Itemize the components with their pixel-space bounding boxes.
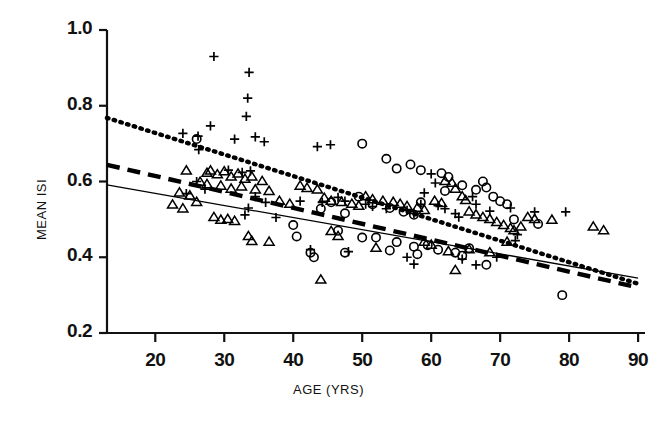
data-point-plus (296, 197, 305, 206)
x-tick-label: 50 (336, 349, 388, 371)
data-point-plus (206, 121, 215, 130)
data-point-markers (168, 52, 609, 299)
y-tick-label: 1.0 (40, 17, 92, 39)
data-point-plus (431, 178, 440, 187)
x-tick-label: 40 (267, 349, 319, 371)
x-tick-label: 30 (198, 349, 250, 371)
data-point-circle (558, 291, 566, 299)
y-axis-ticks (99, 30, 107, 333)
data-point-triangle (226, 184, 236, 192)
data-point-plus (209, 52, 218, 61)
x-tick-label: 70 (474, 349, 526, 371)
data-point-triangle (599, 226, 609, 234)
data-point-triangle (371, 243, 381, 251)
y-tick-label: 0.8 (40, 93, 92, 115)
data-point-circle (341, 209, 349, 217)
data-point-plus (409, 259, 418, 268)
data-point-circle (413, 250, 421, 258)
data-point-triangle (257, 176, 267, 184)
data-point-plus (471, 260, 480, 269)
data-point-triangle (247, 236, 257, 244)
data-point-plus (243, 94, 252, 103)
data-point-plus (427, 169, 436, 178)
data-point-circle (434, 245, 442, 253)
data-point-triangle (285, 199, 295, 207)
data-point-circle (317, 205, 325, 213)
data-point-triangle (547, 215, 557, 223)
data-point-plus (313, 142, 322, 151)
data-point-triangle (264, 186, 274, 194)
data-point-triangle (168, 200, 178, 208)
data-point-circle (382, 155, 390, 163)
data-point-triangle (264, 237, 274, 245)
data-point-circle (472, 186, 480, 194)
data-point-triangle (516, 222, 526, 230)
data-point-triangle (250, 185, 260, 193)
x-axis-title: AGE (YRS) (0, 382, 657, 397)
x-tick-label: 20 (129, 349, 181, 371)
data-point-plus (402, 253, 411, 262)
data-point-plus (561, 207, 570, 216)
data-point-circle (372, 233, 380, 241)
data-point-circle (510, 215, 518, 223)
data-point-triangle (450, 265, 460, 273)
data-point-plus (511, 236, 520, 245)
data-point-plus (251, 132, 260, 141)
x-tick-label: 90 (612, 349, 657, 371)
data-point-circle (458, 181, 466, 189)
data-point-circle (392, 164, 400, 172)
x-tick-label: 60 (405, 349, 457, 371)
data-point-triangle (174, 188, 184, 196)
data-point-circle (392, 238, 400, 246)
scatter-plot-figure: 0.20.40.60.81.0 2030405060708090 AGE (YR… (0, 0, 657, 421)
data-point-circle (441, 187, 449, 195)
data-point-triangle (316, 275, 326, 283)
data-point-circle (292, 232, 300, 240)
data-point-plus (420, 188, 429, 197)
data-point-circle (386, 246, 394, 254)
data-point-circle (406, 160, 414, 168)
data-point-triangle (178, 204, 188, 212)
data-point-circle (417, 166, 425, 174)
data-point-plus (178, 129, 187, 138)
data-point-circle (358, 139, 366, 147)
data-point-triangle (247, 172, 257, 180)
data-point-plus (242, 112, 251, 121)
data-point-plus (326, 140, 335, 149)
data-point-plus (230, 134, 239, 143)
x-axis-ticks (155, 333, 638, 342)
y-axis-title: MEAN ISI (34, 179, 49, 240)
data-point-circle (482, 261, 490, 269)
fit-line-dashed (107, 165, 638, 288)
y-tick-label: 0.2 (40, 320, 92, 342)
data-point-triangle (588, 222, 598, 230)
data-point-circle (289, 221, 297, 229)
data-point-plus (244, 68, 253, 77)
y-tick-label: 0.4 (40, 244, 92, 266)
data-point-triangle (464, 207, 474, 215)
data-point-plus (260, 137, 269, 146)
x-tick-label: 80 (543, 349, 595, 371)
data-point-triangle (181, 166, 191, 174)
data-point-triangle (216, 181, 226, 189)
data-point-circle (358, 233, 366, 241)
axes (99, 30, 645, 342)
